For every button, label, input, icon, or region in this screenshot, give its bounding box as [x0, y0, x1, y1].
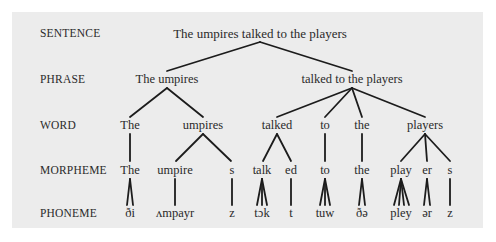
edge: [167, 42, 260, 71]
morpheme-node: talk: [253, 164, 272, 177]
level-label-morpheme: MORPHEME: [40, 164, 107, 176]
word-node: the: [354, 119, 369, 132]
morpheme-node: to: [320, 164, 330, 177]
phoneme-node: ði: [125, 207, 135, 220]
phoneme-node: tɔk: [254, 207, 269, 220]
word-node: to: [320, 119, 330, 132]
morpheme-node: s: [230, 164, 235, 177]
phoneme-node: t: [289, 207, 292, 220]
edge: [425, 134, 427, 161]
edge: [176, 134, 203, 161]
edge: [277, 134, 291, 161]
phoneme-node: z: [229, 207, 235, 220]
morpheme-node: umpire: [157, 164, 192, 177]
level-label-sentence: SENTENCE: [40, 27, 100, 39]
phoneme-node: z: [447, 207, 453, 220]
word-node: talked: [262, 119, 293, 132]
morpheme-node: play: [390, 164, 412, 177]
word-node: The: [120, 119, 139, 132]
edge: [167, 88, 203, 117]
phoneme-node: ðə: [356, 207, 368, 220]
level-label-phrase: PHRASE: [40, 73, 85, 85]
phoneme-node: tuw: [316, 207, 335, 220]
edge: [260, 42, 352, 71]
phrase-node: talked to the players: [301, 73, 402, 86]
sentence-node: The umpires talked to the players: [173, 27, 347, 40]
morpheme-node: The: [120, 164, 139, 177]
edge: [130, 88, 167, 117]
edge: [425, 134, 450, 161]
edge: [130, 179, 133, 205]
phoneme-node: ʌmpayr: [156, 207, 194, 220]
edge: [401, 134, 425, 161]
edge: [203, 134, 231, 161]
edge: [352, 88, 362, 117]
edge: [263, 134, 277, 161]
word-node: umpires: [183, 119, 223, 132]
phoneme-node: pley: [390, 207, 412, 220]
phrase-node: The umpires: [136, 73, 199, 86]
level-label-phoneme: PHONEME: [40, 207, 97, 219]
edge: [277, 88, 352, 117]
edge: [427, 179, 430, 205]
morpheme-node: s: [448, 164, 453, 177]
morpheme-node: er: [422, 164, 432, 177]
phoneme-node: ər: [422, 207, 432, 220]
edge: [362, 179, 365, 205]
level-label-word: WORD: [40, 119, 76, 131]
morpheme-node: ed: [285, 164, 297, 177]
edge: [352, 88, 425, 117]
morpheme-node: the: [354, 164, 369, 177]
word-node: players: [407, 119, 443, 132]
